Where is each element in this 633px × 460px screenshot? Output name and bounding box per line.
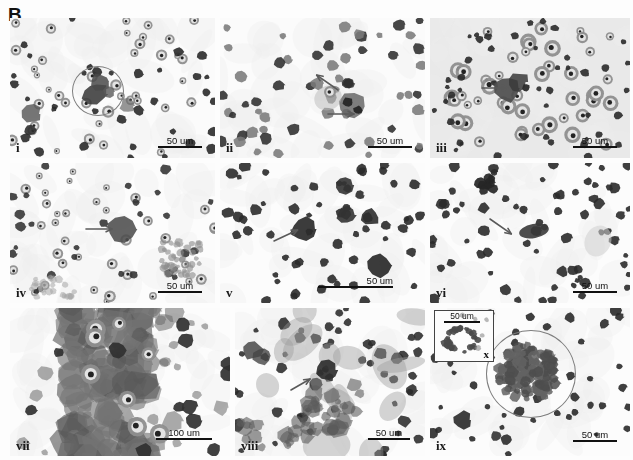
scale-bar-line-vii	[156, 438, 212, 440]
scale-bar-i: 50 um	[158, 136, 202, 148]
scale-bar-line-iv	[158, 291, 202, 293]
micrograph-panel-ii[interactable]: ii 50 um	[220, 18, 425, 158]
panel-label-vi: vi	[436, 286, 446, 299]
micrograph-panel-i[interactable]: i 50 um	[10, 18, 215, 158]
scale-bar-viii: 50 um	[368, 428, 410, 440]
inset-label-x: x	[484, 348, 490, 360]
scale-bar-line-vi	[573, 291, 617, 293]
scale-bar-vi: 50 um	[573, 281, 617, 293]
scale-bar-label-v: 50 um	[367, 275, 393, 286]
micrograph-panel-iii[interactable]: iii 50 um	[430, 18, 630, 158]
panel-label-iii: iii	[436, 141, 447, 154]
micrograph-panel-iv[interactable]: iv 50 um	[10, 163, 215, 303]
scale-bar-label-x: 50 um	[444, 311, 480, 321]
micrograph-panel-ix[interactable]: ix 50 um 50 um x	[430, 308, 630, 456]
scale-bar-v: 50 um	[318, 275, 393, 293]
scale-bar-line-iii	[573, 146, 617, 148]
circle-annotation-ix	[486, 330, 576, 418]
scale-bar-line-x	[444, 321, 480, 323]
scale-bar-vii: 100 um	[156, 428, 212, 440]
scale-bar-label-iii: 50 um	[573, 136, 617, 146]
scale-bar-line-i	[158, 146, 202, 148]
panel-label-vii: vii	[16, 439, 30, 452]
scale-bar-label-ix: 50 um	[573, 430, 617, 440]
micrograph-panel-viii[interactable]: viii 50 um	[235, 308, 425, 456]
panel-label-i: i	[16, 141, 20, 154]
scale-bar-label-ii: 50 um	[368, 136, 412, 146]
scale-bar-label-iv: 50 um	[158, 281, 202, 291]
scale-bar-line-ix	[573, 440, 617, 442]
scale-bar-line-viii	[368, 438, 410, 440]
micrograph-inset-x[interactable]: 50 um x	[434, 310, 494, 362]
panel-label-ii: ii	[226, 141, 233, 154]
panel-label-ix: ix	[436, 439, 446, 452]
scale-bar-iv: 50 um	[158, 281, 202, 293]
panel-label-viii: viii	[241, 439, 258, 452]
panel-grid: i 50 um ii 50 um iii 50 um	[10, 18, 630, 456]
micrograph-panel-vii[interactable]: vii 100 um	[10, 308, 230, 456]
scale-bar-x: 50 um	[444, 311, 480, 323]
scale-bar-label-vii: 100 um	[156, 428, 212, 438]
scale-bar-label-vi: 50 um	[573, 281, 617, 291]
circle-annotation-i	[72, 66, 124, 116]
figure-panel-b: B i 50 um ii 50 um iii 50 um	[0, 0, 633, 460]
micrograph-panel-vi[interactable]: vi 50 um	[430, 163, 630, 303]
panel-label-v: v	[226, 286, 233, 299]
panel-label-iv: iv	[16, 286, 26, 299]
scale-bar-ix: 50 um	[573, 430, 617, 442]
scale-bar-label-viii: 50 um	[368, 428, 410, 438]
scale-bar-line-ii	[368, 146, 412, 148]
scale-bar-line-v	[318, 286, 393, 288]
scale-bar-iii: 50 um	[573, 136, 617, 148]
scale-bar-ii: 50 um	[368, 136, 412, 148]
scale-bar-label-i: 50 um	[158, 136, 202, 146]
micrograph-panel-v[interactable]: v 50 um	[220, 163, 425, 303]
